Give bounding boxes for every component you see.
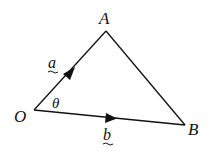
vertex-label-b: B — [188, 120, 199, 139]
vector-label-b: b — [103, 126, 111, 143]
tilde-under-b — [103, 143, 113, 145]
arrow-icon-oa — [63, 67, 75, 80]
angle-label-theta: θ — [52, 95, 60, 111]
vector-label-a: a — [48, 54, 56, 71]
arrow-icon-ob — [105, 113, 117, 123]
tilde-under-a — [48, 71, 58, 73]
vector-triangle-diagram: A O B a b θ — [0, 0, 222, 152]
vertex-label-o: O — [14, 107, 26, 126]
vertex-label-a: A — [98, 9, 110, 28]
edge-ab — [106, 31, 185, 125]
